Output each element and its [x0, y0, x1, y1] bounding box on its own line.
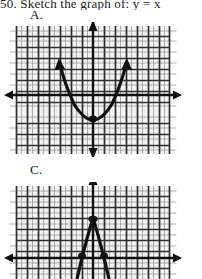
x-axis-left-arrow [4, 254, 13, 263]
vertex-marker-a [89, 116, 97, 123]
worksheet-page: 50. Sketch the graph of: y = x A. [0, 0, 202, 279]
y-axis-up-arrow [89, 182, 98, 185]
root-marker-right-c [100, 253, 108, 260]
graph-c-svg [0, 182, 202, 279]
graph-choice-a [0, 22, 202, 157]
x-axis-right-arrow [173, 254, 182, 263]
vertex-marker-c [88, 216, 97, 222]
choice-label-c: C. [30, 163, 42, 176]
x-axis-left-arrow [4, 91, 13, 100]
x-axis-right-arrow [173, 91, 182, 100]
graph-choice-c [0, 182, 202, 279]
choice-label-a: A. [30, 8, 43, 21]
root-marker-left-c [78, 253, 86, 260]
graph-a-svg [0, 22, 202, 157]
